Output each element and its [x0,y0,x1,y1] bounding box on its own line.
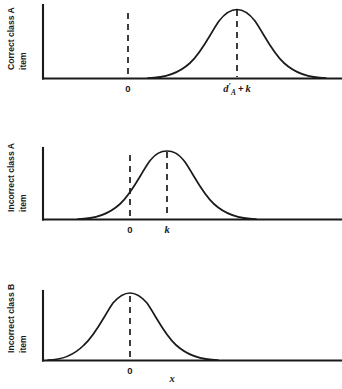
figure-container: Correct class A item 0 d′A + k Incorrect… [0,0,342,389]
panel-1-ylabel-line1: Correct class A [6,7,16,70]
panel-1-tick-label-dprime-text: d′A + k [223,81,251,98]
panel-1-tick-label-dprime: d′A + k [223,81,251,98]
panel-3-tick-label-zero: 0 [127,365,132,376]
panel-1-ylabel-line2: item [18,52,28,70]
panel-3-ylabel-line2: item [18,335,28,353]
panel-3-ylabel-group: Incorrect class B item [6,284,28,353]
panel-3-ylabel-line1: Incorrect class B [6,284,16,353]
panel-2-ylabel-group: Incorrect class A item [6,143,28,212]
panel-1-ylabel-group: Correct class A item [6,7,28,70]
panel-correct-class-a: Correct class A item 0 d′A + k [6,5,342,97]
panel-3-distribution-curve [48,293,218,360]
panel-incorrect-class-a: Incorrect class A item 0 k [6,143,342,235]
panel-2-tick-label-k: k [164,224,170,235]
panel-1-tick-label-zero: 0 [125,83,130,94]
panel-incorrect-class-b: Incorrect class B item 0 x [6,284,342,384]
figure-svg: Correct class A item 0 d′A + k Incorrect… [0,0,342,389]
panel-2-ylabel-line1: Incorrect class A [6,143,16,212]
panel-2-ylabel-line2: item [18,194,28,212]
panel-2-tick-label-zero: 0 [127,224,132,235]
x-axis-title: x [168,373,174,384]
